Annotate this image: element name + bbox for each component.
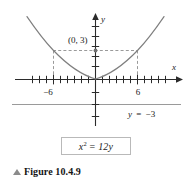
equation-exponent: 2 — [83, 139, 86, 146]
y-axis-label: y — [100, 14, 105, 24]
equation-text: x2 = 12y — [79, 141, 113, 152]
figure-caption-text: Figure 10.4.9 — [24, 166, 81, 177]
x-tick-label-6: 6 — [136, 87, 141, 97]
equation-relation: = — [90, 141, 96, 152]
figure-container: x y −6 6 (0, 3) y = −3 x2 = 12y Figure 1… — [0, 0, 192, 184]
equation-box: x2 = 12y — [61, 137, 131, 155]
x-tick-label-minus-6: −6 — [43, 87, 53, 97]
figure-caption: Figure 10.4.9 — [13, 166, 81, 177]
triangle-marker-icon — [13, 169, 21, 175]
equation-right-side: 12y — [98, 141, 113, 152]
y-axis-arrow-icon — [92, 13, 99, 20]
parabola-plot: x y −6 6 (0, 3) y = −3 — [0, 0, 192, 128]
x-axis-label: x — [171, 62, 176, 72]
focus-point-label: (0, 3) — [68, 35, 88, 45]
directrix-label-value: −3 — [146, 109, 156, 119]
directrix-label-variable: y — [127, 109, 132, 119]
x-axis-arrow-icon — [176, 76, 183, 83]
focus-point — [94, 49, 98, 53]
directrix-label: y = −3 — [127, 109, 156, 119]
directrix-label-relation: = — [136, 109, 141, 119]
